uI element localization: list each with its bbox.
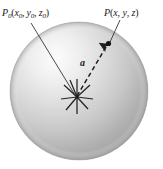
sphere-vector-figure: P0(x0, y0, z0) P(x, y, z) a xyxy=(0,0,163,169)
sphere-shape xyxy=(10,22,148,160)
label-source-point: P0(x0, y0, z0) xyxy=(2,7,49,20)
label-field-point: P(x, y, z) xyxy=(104,7,139,18)
label-vector-a: a xyxy=(80,57,85,68)
field-point-dot xyxy=(106,41,111,46)
label-p-paren-close: ) xyxy=(135,7,138,18)
label-p0-paren-close: ) xyxy=(46,7,49,18)
figure-canvas xyxy=(0,0,163,169)
